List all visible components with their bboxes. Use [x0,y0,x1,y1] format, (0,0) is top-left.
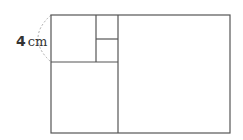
dimension-value: 4 [16,33,26,49]
dimension-unit: cm [28,34,48,49]
dimension-label: 4cm [16,33,47,50]
outer-rectangle [51,15,230,133]
squares-figure [0,0,243,140]
